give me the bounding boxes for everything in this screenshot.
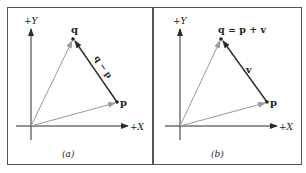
x-axis-label: +X — [279, 122, 294, 132]
point-q-label: q = p + v — [218, 24, 266, 35]
panel-a: +Y +X q p q − p (a) — [8, 8, 153, 165]
point-q-label: q — [71, 24, 78, 35]
point-p-label: p — [270, 97, 277, 108]
vector-origin-to-q — [31, 41, 72, 126]
panel-b: +Y +X q = p + v p v (b) — [154, 8, 302, 165]
panel-a-frame — [8, 8, 153, 165]
point-p-label: p — [120, 97, 127, 108]
y-axis-label: +Y — [173, 16, 188, 26]
vector-origin-to-p — [31, 103, 115, 126]
vector-origin-to-p — [180, 103, 265, 126]
y-axis-label: +Y — [24, 16, 39, 26]
x-axis-label: +X — [130, 122, 145, 132]
panel-caption: (a) — [62, 149, 75, 159]
vector-v — [223, 41, 267, 102]
point-p — [265, 100, 269, 104]
vector-label: q − p — [92, 54, 114, 80]
point-q — [219, 37, 223, 41]
vector-origin-to-q — [180, 41, 220, 126]
vector-diagram: +Y +X q p q − p (a) +Y +X q = p + v p v … — [0, 0, 306, 173]
vector-label: v — [245, 64, 252, 75]
panel-caption: (b) — [211, 149, 224, 159]
point-q — [71, 37, 75, 41]
point-p — [115, 100, 119, 104]
